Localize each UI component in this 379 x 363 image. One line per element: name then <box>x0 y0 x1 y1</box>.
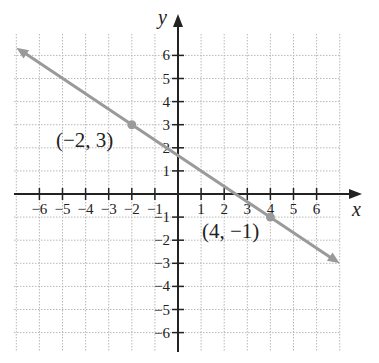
y-tick-label: −4 <box>154 278 170 294</box>
point-label: (−2, 3) <box>56 128 113 152</box>
y-axis-arrow-icon <box>173 14 183 27</box>
data-point <box>127 120 136 129</box>
y-tick-label: −1 <box>154 209 170 225</box>
x-tick-label: −5 <box>55 201 71 217</box>
y-tick-label: −5 <box>154 302 170 318</box>
y-tick-label: 1 <box>163 163 171 179</box>
x-tick-label: 2 <box>220 201 228 217</box>
y-tick-label: −2 <box>154 232 170 248</box>
y-tick-label: 3 <box>163 117 171 133</box>
y-tick-label: 6 <box>163 47 171 63</box>
x-tick-label: −3 <box>101 201 117 217</box>
data-point <box>266 213 275 222</box>
x-tick-label: −2 <box>124 201 140 217</box>
x-tick-label: 1 <box>197 201 205 217</box>
x-tick-label: 6 <box>313 201 321 217</box>
x-tick-label: −4 <box>78 201 94 217</box>
x-tick-label: −6 <box>31 201 47 217</box>
x-tick-label: 5 <box>290 201 298 217</box>
point-label: (4, −1) <box>202 219 259 243</box>
coordinate-plane: xy−6−5−4−3−2−1123456654321−1−2−3−4−5−6(−… <box>0 0 379 363</box>
y-tick-label: 5 <box>163 71 171 87</box>
y-tick-label: −6 <box>154 325 170 341</box>
y-axis-label: y <box>156 6 167 29</box>
y-tick-label: −3 <box>154 255 170 271</box>
y-tick-label: 4 <box>163 94 171 110</box>
x-axis-label: x <box>351 198 361 220</box>
